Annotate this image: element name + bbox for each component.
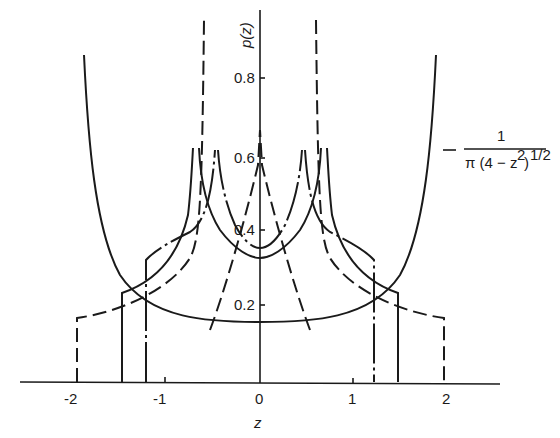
x-tick-label: -1	[153, 390, 166, 407]
y-tick-label: 0.6	[234, 149, 255, 166]
x-axis-label: z	[253, 414, 262, 431]
density-chart: -2 -1 0 1 2 z 0.2 0.4 0.6 0.8 p(z) 1 π (…	[0, 0, 560, 438]
y-tick-label: 0.2	[234, 296, 255, 313]
y-tick-label: 0.8	[234, 69, 255, 86]
x-tick-label: 0	[255, 390, 263, 407]
annotation-close-paren: )	[524, 154, 529, 171]
y-axis-label: p(z)	[237, 22, 254, 49]
x-tick-label: 2	[442, 390, 450, 407]
annotation-exponent: 1/2	[530, 146, 551, 163]
x-tick-label: 1	[348, 390, 356, 407]
annotation-numerator: 1	[497, 127, 505, 144]
annotation-denominator: π (4 − z	[465, 154, 517, 171]
x-tick-label: -2	[64, 390, 77, 407]
annotation-formula: 1 π (4 − z 2 ) 1/2	[443, 127, 551, 171]
